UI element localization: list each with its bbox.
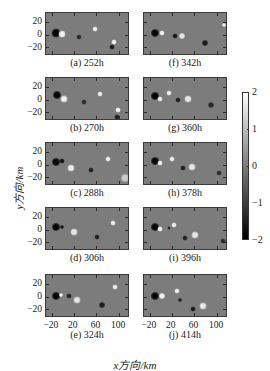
panel-g	[143, 77, 227, 120]
vortex-blob	[114, 114, 119, 119]
vortex-blob	[89, 168, 94, 173]
axis-tick	[144, 217, 147, 218]
panel-e	[45, 274, 129, 317]
vortex-blob	[121, 174, 129, 182]
x-tick-label: −20	[137, 320, 161, 330]
axis-tick	[52, 246, 53, 249]
axis-tick	[223, 152, 226, 153]
axis-tick	[194, 275, 195, 278]
panel-caption-e: (e) 324h	[45, 329, 129, 340]
axis-tick	[223, 87, 226, 88]
axis-tick	[217, 143, 218, 146]
axis-tick	[194, 143, 195, 146]
vortex-blob	[66, 294, 71, 299]
y-tick-label: 20	[20, 146, 42, 156]
panel-caption-d: (d) 306h	[45, 252, 129, 263]
axis-tick	[144, 297, 147, 298]
axis-tick	[125, 284, 128, 285]
axis-tick	[223, 165, 226, 166]
vortex-blob	[109, 44, 114, 49]
x-tick-label: −20	[39, 320, 63, 330]
x-tick-label: 100	[106, 320, 130, 330]
axis-tick	[217, 116, 218, 119]
axis-tick	[74, 313, 75, 316]
axis-tick	[52, 143, 53, 146]
vortex-blob	[167, 226, 170, 229]
axis-tick	[172, 51, 173, 54]
vortex-blob	[217, 170, 222, 175]
axis-tick	[119, 143, 120, 146]
axis-tick	[125, 230, 128, 231]
axis-tick	[144, 230, 147, 231]
vortex-blob	[158, 226, 163, 231]
axis-tick	[96, 143, 97, 146]
axis-tick	[52, 51, 53, 54]
y-tick-label: −20	[20, 42, 42, 52]
y-tick-label: −20	[20, 107, 42, 117]
axis-tick	[172, 246, 173, 249]
axis-tick	[144, 100, 147, 101]
y-tick-label: 0	[20, 29, 42, 39]
vortex-blob	[59, 30, 66, 37]
y-tick-label: −20	[20, 304, 42, 314]
colorbar-tick	[247, 166, 249, 167]
vortex-blob	[98, 92, 103, 97]
vortex-blob	[191, 307, 196, 312]
axis-tick	[119, 181, 120, 184]
vortex-blob	[60, 159, 65, 164]
axis-tick	[119, 51, 120, 54]
axis-tick	[74, 246, 75, 249]
axis-tick	[96, 78, 97, 81]
panel-caption-i: (i) 396h	[143, 252, 227, 263]
axis-tick	[172, 13, 173, 16]
vortex-blob	[183, 235, 188, 240]
axis-tick	[125, 47, 128, 48]
x-tick-label: 100	[204, 320, 228, 330]
panel-caption-b: (b) 270h	[45, 122, 129, 133]
axis-tick	[96, 51, 97, 54]
axis-tick	[125, 309, 128, 310]
axis-tick	[46, 177, 49, 178]
axis-tick	[172, 313, 173, 316]
panel-caption-h: (h) 378h	[143, 187, 227, 198]
vortex-blob	[159, 293, 165, 299]
axis-tick	[125, 217, 128, 218]
axis-tick	[74, 181, 75, 184]
axis-tick	[46, 309, 49, 310]
axis-tick	[96, 313, 97, 316]
axis-tick	[96, 275, 97, 278]
axis-tick	[217, 313, 218, 316]
axis-tick	[46, 100, 49, 101]
vortex-blob	[185, 96, 192, 103]
axis-tick	[74, 51, 75, 54]
axis-tick	[74, 275, 75, 278]
axis-tick	[144, 284, 147, 285]
axis-tick	[46, 35, 49, 36]
axis-tick	[217, 275, 218, 278]
axis-tick	[144, 152, 147, 153]
axis-tick	[119, 116, 120, 119]
axis-tick	[125, 165, 128, 166]
y-tick-label: 0	[20, 224, 42, 234]
axis-tick	[223, 35, 226, 36]
x-tick-label: 20	[159, 320, 183, 330]
axis-tick	[125, 297, 128, 298]
axis-tick	[172, 275, 173, 278]
axis-tick	[144, 165, 147, 166]
axis-tick	[217, 208, 218, 211]
panel-b	[45, 77, 129, 120]
axis-tick	[150, 181, 151, 184]
axis-tick	[172, 181, 173, 184]
axis-tick	[52, 13, 53, 16]
axis-tick	[46, 47, 49, 48]
axis-tick	[144, 35, 147, 36]
colorbar-tick	[247, 129, 249, 130]
vortex-blob	[61, 96, 68, 103]
panel-i	[143, 207, 227, 250]
y-tick-label: −20	[20, 237, 42, 247]
vortex-blob	[191, 232, 198, 239]
axis-tick	[46, 242, 49, 243]
axis-tick	[144, 87, 147, 88]
vortex-blob	[112, 285, 117, 290]
axis-tick	[223, 112, 226, 113]
